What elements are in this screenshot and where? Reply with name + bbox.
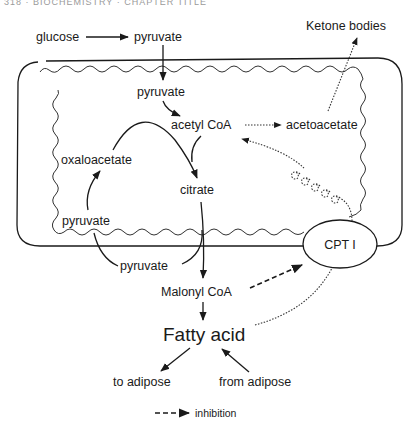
pyruvate-cytosol-lower-label: pyruvate <box>120 259 168 273</box>
pyruvate-mito-label: pyruvate <box>137 85 185 99</box>
ketone-bodies-label: Ketone bodies <box>306 19 386 33</box>
fattyacid-to-cpt1-line <box>255 268 332 325</box>
pyruvate-to-acetylcoa-arrow <box>163 101 180 116</box>
cpt1-label: CPT I <box>324 238 356 252</box>
legend: inhibition <box>155 407 237 419</box>
pyruvate-crossing-line <box>94 233 118 266</box>
pyruvate-cytosol-label: pyruvate <box>134 30 182 44</box>
acetoacetate-label: acetoacetate <box>286 118 358 132</box>
malonylcoa-inhibits-cpt1-arrow <box>250 265 302 288</box>
malonylcoa-label: Malonyl CoA <box>161 285 233 299</box>
acetylcoa-label: acetyl CoA <box>171 118 232 132</box>
pyruvate-loop-line <box>182 230 202 264</box>
page-header-cropped: 318 · BIOCHEMISTRY · CHAPTER TITLE <box>4 0 207 7</box>
pyruvate-to-oxaloacetate-arrow <box>87 171 100 210</box>
cpt1-to-helix-line <box>340 198 352 221</box>
acetoacetate-to-ketones-arrow <box>328 38 357 111</box>
oxaloacetate-label: oxaloacetate <box>61 153 132 167</box>
helix-to-acetylcoa-arrow <box>242 139 304 168</box>
helix-beta-oxidation <box>292 172 340 203</box>
fattyacid-to-adipose-arrow <box>161 348 190 371</box>
from-adipose-label: from adipose <box>219 375 291 389</box>
inner-membrane <box>40 66 366 235</box>
metabolic-pathway-diagram: 318 · BIOCHEMISTRY · CHAPTER TITLE CPT I… <box>0 0 416 422</box>
to-adipose-label: to adipose <box>113 375 171 389</box>
legend-inhibition-label: inhibition <box>195 407 237 419</box>
acetylcoa-join-line <box>192 136 201 162</box>
adipose-to-fattyacid-arrow <box>222 349 249 372</box>
fattyacid-label: Fatty acid <box>163 324 245 345</box>
citrate-label: citrate <box>180 183 214 197</box>
glucose-label: glucose <box>36 30 79 44</box>
pyruvate-mito-lower-label: pyruvate <box>62 214 110 228</box>
